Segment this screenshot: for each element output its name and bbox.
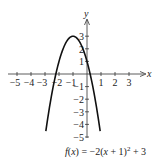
svg-text:−3: −3	[37, 77, 48, 88]
svg-text:2: 2	[113, 77, 118, 88]
svg-text:−5: −5	[10, 77, 21, 88]
x-tick-labels: −5 −4 −3 −2 −1 1 2 3	[10, 77, 132, 88]
svg-text:3: 3	[127, 77, 132, 88]
svg-text:−5: −5	[73, 132, 84, 143]
svg-text:−4: −4	[24, 77, 35, 88]
svg-text:−1: −1	[73, 81, 84, 92]
svg-text:−4: −4	[73, 119, 84, 130]
svg-text:1: 1	[99, 77, 104, 88]
svg-text:1: 1	[79, 56, 84, 67]
svg-text:3: 3	[79, 31, 84, 42]
svg-text:−2: −2	[73, 94, 84, 105]
function-caption: f(x) = −2(x + 1)2 + 3	[65, 145, 146, 158]
x-axis-label: x	[146, 68, 152, 79]
svg-text:−3: −3	[73, 107, 84, 118]
plot-svg: −5 −4 −3 −2 −1 1 2 3 3 2 1 −1 −2 −3 −4 −…	[0, 0, 159, 161]
function-graph: −5 −4 −3 −2 −1 1 2 3 3 2 1 −1 −2 −3 −4 −…	[0, 0, 159, 161]
y-axis-label: y	[83, 8, 89, 19]
